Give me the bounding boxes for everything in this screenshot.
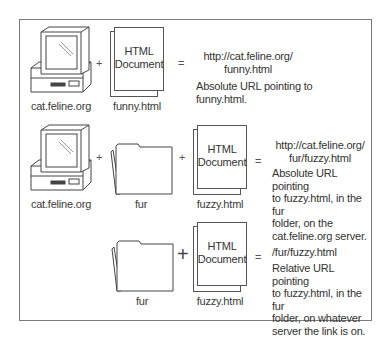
description-line: to fuzzy.html, in the fur [272,287,372,312]
description-line: folder, on whatever [272,312,372,325]
html-document-icon: HTML Document [110,27,164,97]
description-line: server the link is on. [272,325,372,338]
html-document-icon: HTML Document [193,222,247,292]
folder-label: fur [117,295,167,307]
description-text: Absolute URL pointing to funny.html. [196,80,346,105]
plus-sign: + [96,151,102,163]
description-line: cat.feline.org server. [272,230,372,243]
url-line-2: funny.html [198,63,298,76]
computer-icon [29,26,93,96]
url-text: http://cat.feline.org/ funny.html [198,50,298,75]
description-text: Absolute URL pointing to fuzzy.html, in … [272,167,372,242]
url-line-1: /fur/fuzzy.html [272,246,372,259]
server-label: cat.feline.org [20,100,102,112]
document-title-line2: Document [198,156,247,169]
description-text: Relative URL pointing to fuzzy.html, in … [272,262,372,337]
file-label: funny.html [104,100,170,112]
plus-sign: + [177,243,189,266]
url-text: /fur/fuzzy.html [272,246,372,259]
document-title-line2: Document [115,58,164,71]
equals-sign: = [255,251,261,263]
plus-sign: + [96,57,102,69]
html-document-icon: HTML Document [193,125,247,195]
file-label: fuzzy.html [187,295,253,307]
file-label: fuzzy.html [187,198,253,210]
document-title-line1: HTML [198,240,247,253]
folder-icon [109,239,175,293]
document-title-line2: Document [198,253,247,266]
document-title-line1: HTML [198,143,247,156]
description-line: Absolute URL pointing to [196,80,346,93]
folder-label: fur [116,198,166,210]
description-line: Absolute URL pointing [272,167,372,192]
description-line: Relative URL pointing [272,262,372,287]
equals-sign: = [255,155,261,167]
url-line-1: http://cat.feline.org/ [270,139,370,152]
document-title-line1: HTML [115,45,164,58]
server-label: cat.feline.org [20,198,102,210]
url-line-1: http://cat.feline.org/ [198,50,298,63]
url-text: http://cat.feline.org/ fur/fuzzy.html [270,139,370,164]
description-line: folder, on the [272,217,372,230]
url-line-2: fur/fuzzy.html [270,152,370,165]
equals-sign: = [178,57,184,69]
folder-icon [108,142,174,196]
plus-sign: + [179,151,185,163]
description-line: funny.html. [196,93,346,106]
computer-icon [29,124,93,194]
description-line: to fuzzy.html, in the fur [272,192,372,217]
